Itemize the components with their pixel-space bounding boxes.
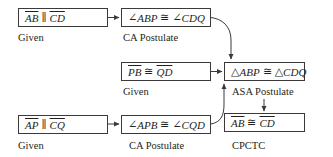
segment-cd: CD — [50, 12, 65, 24]
angle-symbol: ∠ — [128, 118, 137, 131]
congruent-symbol: ≅ — [141, 65, 156, 78]
reason-label-asa-postulate: ASA Postulate — [232, 86, 294, 97]
parallel-symbol: ∥ — [38, 11, 49, 24]
reason-label-given-3: Given — [18, 140, 44, 151]
triangle-symbol: △ — [275, 65, 283, 78]
congruent-symbol: ≅ — [157, 11, 172, 24]
congruent-symbol: ≅ — [244, 116, 259, 129]
reason-label-given-1: Given — [18, 32, 44, 43]
segment-pb: PB — [128, 66, 141, 78]
statement-box-ab-parallel-cd: AB ∥ CD — [18, 8, 108, 27]
reason-label-given-2: Given — [123, 86, 149, 97]
angle-cqd: CQD — [182, 119, 205, 131]
arrow-s6-to-s4 — [211, 84, 224, 124]
angle-symbol: ∠ — [172, 11, 181, 24]
triangle-cdq: CDQ — [283, 66, 306, 78]
reason-label-ca-postulate-1: CA Postulate — [123, 32, 178, 43]
reason-label-ca-postulate-2: CA Postulate — [129, 140, 184, 151]
segment-ab: AB — [231, 117, 244, 129]
segment-cq: CQ — [50, 119, 65, 131]
angle-cdq: CDQ — [182, 12, 205, 24]
segment-qd: QD — [156, 66, 172, 78]
angle-apb: APB — [137, 119, 157, 131]
angle-symbol: ∠ — [128, 11, 137, 24]
congruent-symbol: ≅ — [260, 65, 275, 78]
congruent-symbol: ≅ — [157, 118, 172, 131]
triangle-abp: ABP — [239, 66, 259, 78]
segment-ap: AP — [25, 119, 38, 131]
statement-box-angle-apb-congruent-cqd: ∠ APB ≅ ∠ CQD — [121, 115, 211, 134]
statement-box-pb-congruent-qd: PB ≅ QD — [121, 62, 211, 81]
statement-box-ap-parallel-cq: AP ∥ CQ — [18, 115, 108, 134]
statement-box-triangle-abp-congruent-cdq: △ ABP ≅ △ CDQ — [224, 62, 305, 81]
arrow-s2-to-s4 — [211, 18, 231, 60]
statement-box-ab-congruent-cd: AB ≅ CD — [224, 113, 305, 132]
parallel-symbol: ∥ — [38, 118, 49, 131]
angle-abp: ABP — [137, 12, 157, 24]
segment-cd: CD — [259, 117, 274, 129]
segment-ab: AB — [25, 12, 38, 24]
angle-symbol: ∠ — [172, 118, 181, 131]
statement-box-angle-abp-congruent-cdq: ∠ ABP ≅ ∠ CDQ — [121, 8, 211, 27]
reason-label-cpctc: CPCTC — [232, 140, 265, 151]
